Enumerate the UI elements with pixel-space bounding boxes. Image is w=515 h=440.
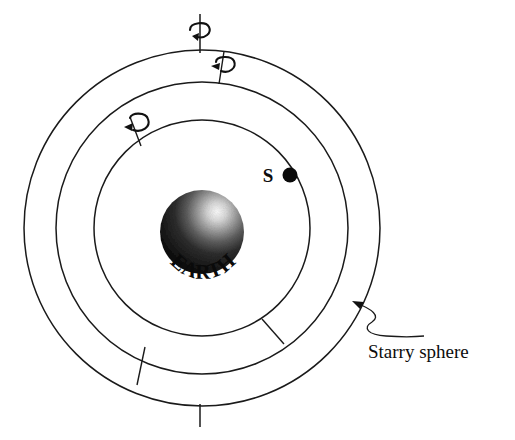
- geocentric-diagram: EARTH S Starry sphere: [0, 0, 515, 440]
- star-label: S: [263, 165, 274, 186]
- starry-sphere-label: Starry sphere: [368, 341, 469, 362]
- diagram-background: [0, 0, 515, 440]
- earth-body: EARTH: [160, 190, 244, 284]
- diagram-canvas: EARTH S Starry sphere: [0, 0, 515, 440]
- star-dot: [283, 168, 298, 183]
